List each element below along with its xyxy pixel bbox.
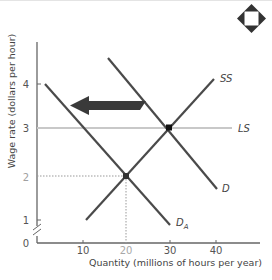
y-tick-label-1: 1 [23, 215, 29, 226]
equilibrium-point-after [123, 173, 129, 179]
origin-label: 0 [23, 238, 29, 249]
da-label-subscript: A [183, 223, 189, 231]
y-tick-label-4: 4 [23, 79, 29, 90]
labor-market-chart: 4 3 2 1 0 10 20 30 40 Quantity (millions… [0, 0, 272, 280]
x-tick-label-40: 40 [210, 245, 223, 256]
y-tick-label-3: 3 [23, 123, 29, 134]
shift-left-arrow-icon [70, 96, 146, 115]
da-label: DA [176, 217, 189, 231]
d-curve [108, 58, 217, 189]
x-tick-label-30: 30 [164, 245, 177, 256]
y-tick-label-2: 2 [23, 172, 29, 183]
ss-curve [86, 79, 214, 220]
ss-label: SS [220, 73, 233, 84]
ls-label: LS [238, 123, 251, 134]
d-label: D [222, 183, 230, 194]
x-axis-title: Quantity (millions of hours per year) [89, 257, 262, 268]
equilibrium-point-before [166, 125, 172, 131]
x-tick-label-20: 20 [120, 245, 133, 256]
y-axis-title: Wage rate (dollars per hour) [6, 34, 17, 169]
x-tick-label-10: 10 [77, 245, 90, 256]
